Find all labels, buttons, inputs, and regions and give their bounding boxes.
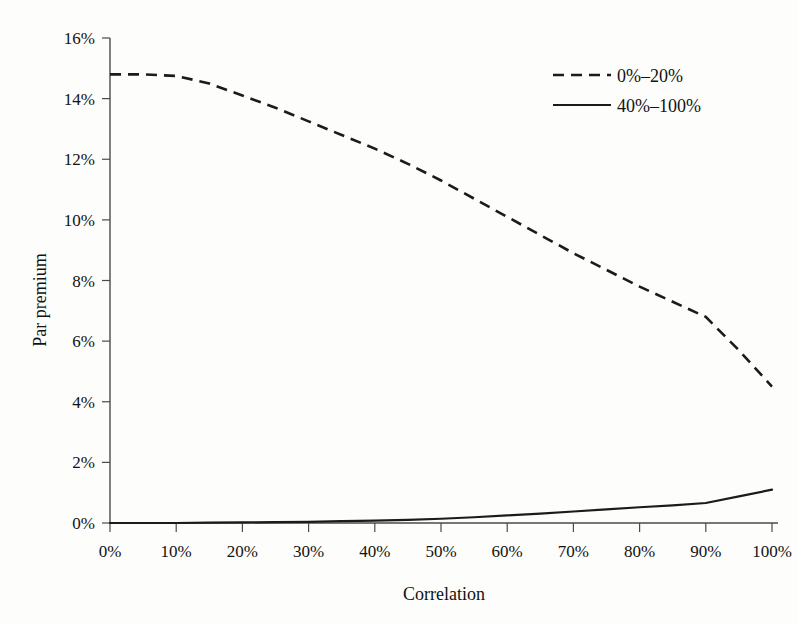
y-tick-label-7: 14% [64, 90, 95, 109]
y-tick-label-3: 6% [72, 332, 95, 351]
figure-background [0, 0, 797, 624]
x-tick-label-8: 80% [624, 542, 655, 561]
x-tick-label-9: 90% [690, 542, 721, 561]
y-axis-title: Par premium [30, 253, 50, 346]
y-tick-label-8: 16% [64, 29, 95, 48]
legend-label-1: 40%–100% [617, 96, 701, 116]
x-tick-label-0: 0% [99, 542, 122, 561]
x-tick-label-6: 60% [492, 542, 523, 561]
x-tick-label-1: 10% [161, 542, 192, 561]
chart-canvas: 0%2%4%6%8%10%12%14%16% 0%10%20%30%40%50%… [0, 0, 797, 624]
legend-label-0: 0%–20% [617, 66, 683, 86]
chart-figure: 0%2%4%6%8%10%12%14%16% 0%10%20%30%40%50%… [0, 0, 797, 624]
x-tick-label-3: 30% [293, 542, 324, 561]
y-tick-label-2: 4% [72, 393, 95, 412]
y-tick-label-4: 8% [72, 272, 95, 291]
x-tick-label-5: 50% [425, 542, 456, 561]
x-tick-label-4: 40% [359, 542, 390, 561]
x-tick-label-10: 100% [752, 542, 792, 561]
x-tick-label-7: 70% [558, 542, 589, 561]
x-axis-title: Correlation [403, 584, 485, 604]
y-tick-label-5: 10% [64, 211, 95, 230]
y-tick-label-1: 2% [72, 453, 95, 472]
x-tick-label-2: 20% [227, 542, 258, 561]
y-tick-label-0: 0% [72, 514, 95, 533]
y-tick-label-6: 12% [64, 150, 95, 169]
